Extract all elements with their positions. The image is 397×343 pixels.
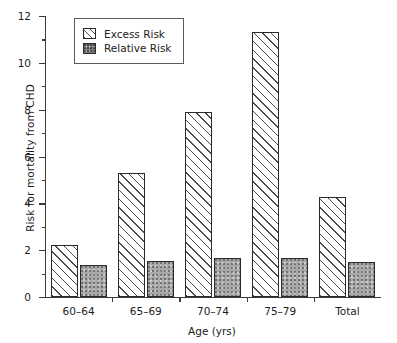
y-tick-major: 0 (39, 297, 45, 298)
legend-item-excess-risk: Excess Risk (83, 28, 171, 40)
bar-excess-risk (185, 112, 212, 297)
x-tick (314, 297, 315, 302)
legend-swatch-excess-risk (83, 28, 96, 39)
x-tick (112, 297, 113, 302)
bar-relative-risk (348, 262, 375, 297)
bar-relative-risk (80, 265, 107, 297)
y-tick-label: 4 (24, 197, 31, 209)
y-tick-minor (42, 227, 46, 228)
y-tick-major: 4 (39, 203, 45, 204)
x-tick-label: 70–74 (197, 305, 229, 317)
x-axis-line (45, 297, 381, 298)
chart-legend: Excess Risk Relative Risk (74, 18, 184, 64)
y-tick-label: 2 (24, 244, 31, 256)
y-tick-label: 6 (24, 151, 31, 163)
x-tick (179, 297, 180, 302)
y-tick-major: 2 (39, 250, 45, 251)
bar-excess-risk (51, 245, 78, 297)
x-tick-label: 75–79 (264, 305, 296, 317)
y-tick-major: 10 (39, 63, 45, 64)
y-tick-minor (42, 274, 46, 275)
legend-swatch-relative-risk (83, 43, 96, 54)
bar-relative-risk (281, 258, 308, 297)
legend-label-relative-risk: Relative Risk (104, 42, 171, 54)
y-axis-line (45, 16, 46, 297)
bar-excess-risk (118, 173, 145, 297)
y-tick-major: 12 (39, 16, 45, 17)
chart-container: Risk for mortality from CHD 024681012 60… (0, 0, 397, 343)
y-tick-minor (42, 86, 46, 87)
bar-relative-risk (214, 258, 241, 297)
x-tick (247, 297, 248, 302)
bar-excess-risk (319, 197, 346, 297)
bar-excess-risk (252, 32, 279, 297)
y-tick-label: 12 (18, 10, 31, 22)
y-tick-label: 10 (18, 57, 31, 69)
legend-label-excess-risk: Excess Risk (104, 28, 165, 40)
y-tick-label: 0 (24, 291, 31, 303)
bar-relative-risk (147, 261, 174, 297)
y-tick-minor (42, 133, 46, 134)
x-tick-label: Total (335, 305, 360, 317)
y-tick-minor (42, 180, 46, 181)
y-tick-minor (42, 39, 46, 40)
x-tick-label: 65–69 (130, 305, 162, 317)
y-tick-major: 8 (39, 110, 45, 111)
y-tick-label: 8 (24, 104, 31, 116)
x-axis-label: Age (yrs) (43, 325, 381, 337)
legend-item-relative-risk: Relative Risk (83, 42, 171, 54)
x-tick-label: 60–64 (63, 305, 95, 317)
y-tick-major: 6 (39, 157, 45, 158)
